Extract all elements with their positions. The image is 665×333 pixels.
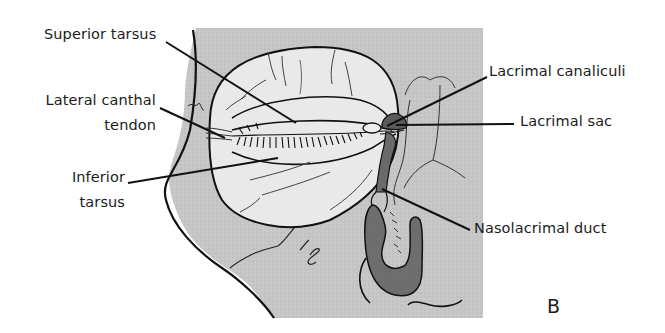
panel-letter: B [547,295,560,317]
label-lacrimal-sac: Lacrimal sac [520,109,612,134]
label-inferior-tarsus-line1: Inferior [40,165,125,190]
label-lacrimal-canaliculi: Lacrimal canaliculi [489,59,626,84]
label-inferior-tarsus: Inferior tarsus [40,165,125,215]
label-lateral-canthal-tendon: Lateral canthal tendon [28,88,156,138]
eyelid-lacrimal-diagram: Superior tarsus Lateral canthal tendon I… [0,0,665,333]
label-inferior-tarsus-line2: tarsus [40,190,125,215]
label-nasolacrimal-duct: Nasolacrimal duct [474,216,606,241]
label-lateral-canthal-tendon-line2: tendon [28,113,156,138]
label-lateral-canthal-tendon-line1: Lateral canthal [28,88,156,113]
label-superior-tarsus: Superior tarsus [44,22,156,47]
leader-lacrimal-sac [396,124,514,125]
